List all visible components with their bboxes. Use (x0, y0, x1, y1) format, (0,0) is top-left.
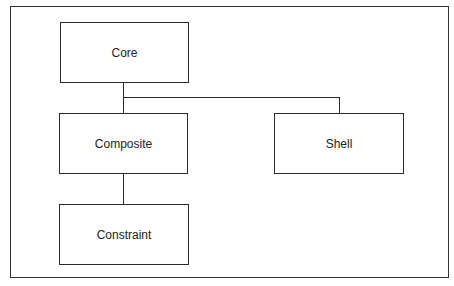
connector-shell-drop (339, 97, 340, 113)
connector-composite-to-constraint (123, 173, 124, 204)
connector-core-to-shell-horizontal (123, 97, 340, 98)
node-core: Core (60, 22, 189, 83)
node-composite: Composite (59, 113, 188, 174)
node-composite-label: Composite (95, 137, 152, 151)
node-shell-label: Shell (326, 137, 353, 151)
node-constraint: Constraint (59, 204, 189, 265)
node-constraint-label: Constraint (97, 228, 152, 242)
node-core-label: Core (111, 46, 137, 60)
node-shell: Shell (274, 113, 404, 174)
